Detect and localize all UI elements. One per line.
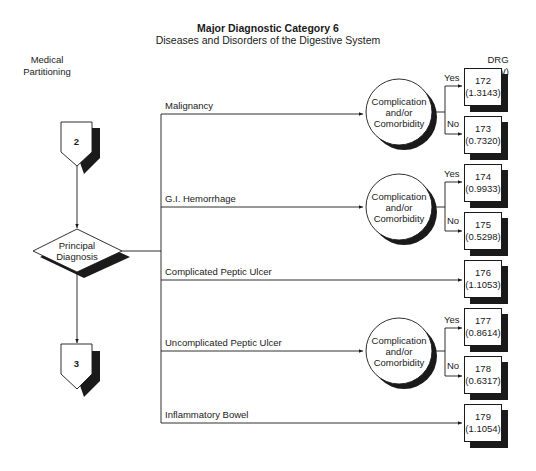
no-label: No: [447, 360, 459, 371]
cc-node-malignancy: Complication and/or Comorbidity: [366, 96, 432, 129]
no-label: No: [447, 118, 459, 129]
drg-box-174: 174 (0.9933): [464, 164, 502, 202]
decision-line: Principal: [48, 240, 106, 251]
drg-box-177: 177 (0.8614): [464, 308, 502, 346]
side-label-line: Partitioning: [22, 66, 72, 78]
drg-number: 175: [465, 219, 501, 231]
drg-box-178: 178 (0.6317): [464, 356, 502, 394]
branch-malignancy: Malignancy: [165, 100, 213, 111]
side-label-line: Medical: [22, 54, 72, 66]
cc-node-uncomplicated-peptic-ulcer: Complication and/or Comorbidity: [366, 335, 432, 368]
relative-weight: (0.6317): [465, 375, 501, 387]
relative-weight: (1.1054): [465, 423, 501, 435]
diagram-subtitle: Diseases and Disorders of the Digestive …: [0, 34, 536, 46]
yes-label: Yes: [444, 168, 460, 179]
branch-inflammatory-bowel: Inflammatory Bowel: [165, 409, 248, 420]
medical-partitioning-label: Medical Partitioning: [22, 54, 72, 78]
branch-complicated-peptic-ulcer: Complicated Peptic Ulcer: [165, 266, 272, 277]
branch-uncomplicated-peptic-ulcer: Uncomplicated Peptic Ulcer: [165, 337, 282, 348]
drg-box-172: 172 (1.3143): [464, 68, 502, 106]
drg-header-line: DRG: [478, 54, 518, 66]
diagram-title: Major Diagnostic Category 6: [0, 22, 536, 34]
relative-weight: (1.3143): [465, 87, 501, 99]
drg-number: 179: [465, 411, 501, 423]
mdc-entry-node-2: 2: [61, 136, 92, 147]
drg-number: 173: [465, 123, 501, 135]
cc-line: and/or: [366, 107, 432, 118]
branch-gi-hemorrhage: G.I. Hemorrhage: [165, 193, 236, 204]
cc-line: Comorbidity: [366, 213, 432, 224]
drg-number: 177: [465, 315, 501, 327]
decision-line: Diagnosis: [48, 251, 106, 262]
mdc-exit-node-3: 3: [61, 358, 92, 369]
principal-diagnosis-node: Principal Diagnosis: [48, 240, 106, 262]
drg-box-176: 176 (1.1053): [464, 260, 502, 298]
relative-weight: (0.8614): [465, 327, 501, 339]
yes-label: Yes: [444, 314, 460, 325]
drg-number: 172: [465, 75, 501, 87]
cc-line: Comorbidity: [366, 118, 432, 129]
cc-line: Complication: [366, 96, 432, 107]
no-label: No: [447, 215, 459, 226]
relative-weight: (0.7320): [465, 135, 501, 147]
drg-number: 176: [465, 267, 501, 279]
cc-line: and/or: [366, 346, 432, 357]
relative-weight: (0.9933): [465, 183, 501, 195]
drg-number: 174: [465, 171, 501, 183]
cc-line: Complication: [366, 191, 432, 202]
drg-box-175: 175 (0.5298): [464, 212, 502, 250]
drg-box-179: 179 (1.1054): [464, 404, 502, 442]
yes-label: Yes: [444, 72, 460, 83]
relative-weight: (0.5298): [465, 231, 501, 243]
cc-line: Complication: [366, 335, 432, 346]
drg-box-173: 173 (0.7320): [464, 116, 502, 154]
drg-number: 178: [465, 363, 501, 375]
cc-line: Comorbidity: [366, 357, 432, 368]
cc-line: and/or: [366, 202, 432, 213]
flow-lines: [0, 0, 536, 471]
relative-weight: (1.1053): [465, 279, 501, 291]
cc-node-gi-hemorrhage: Complication and/or Comorbidity: [366, 191, 432, 224]
